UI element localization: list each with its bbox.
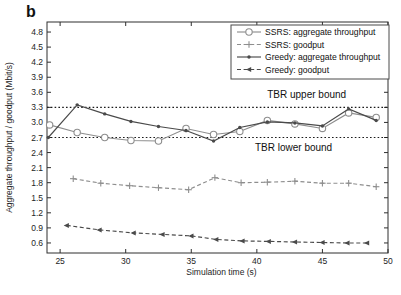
- svg-text:0.6: 0.6: [31, 238, 43, 248]
- throughput-goodput-chart: 2530354045500.60.91.21.51.82.12.42.73.03…: [0, 0, 401, 295]
- tbr-upper-bound-label: TBR upper bound: [267, 89, 346, 100]
- svg-text:2.1: 2.1: [31, 163, 43, 173]
- svg-text:4.8: 4.8: [31, 27, 43, 37]
- svg-text:50: 50: [383, 256, 393, 266]
- series-ssrs-aggregate-throughput: [46, 110, 379, 145]
- svg-text:3.0: 3.0: [31, 117, 43, 127]
- figure-panel-b: b 2530354045500.60.91.21.51.82.12.42.73.…: [0, 0, 401, 295]
- svg-text:2.7: 2.7: [31, 133, 43, 143]
- series-ssrs-goodput: [70, 174, 379, 192]
- y-tick-labels: 0.60.91.21.51.82.12.42.73.03.33.63.94.24…: [31, 27, 43, 248]
- svg-text:1.8: 1.8: [31, 178, 43, 188]
- legend-label-ssrs-aggregate-throughput: SSRS: aggregate throughput: [265, 27, 376, 37]
- svg-text:3.6: 3.6: [31, 87, 43, 97]
- legend-label-greedy-aggregate-throughput: Greedy: aggregate throughput: [265, 52, 381, 62]
- legend-label-ssrs-goodput: SSRS: goodput: [265, 40, 325, 50]
- svg-text:30: 30: [121, 256, 131, 266]
- y-axis-label: Aggregate throughput / goodput (Mbit/s): [4, 62, 14, 213]
- legend-label-greedy-goodput: Greedy: goodput: [265, 65, 330, 75]
- x-tick-labels: 253035404550: [55, 256, 393, 266]
- svg-text:45: 45: [318, 256, 328, 266]
- svg-text:4.2: 4.2: [31, 57, 43, 67]
- svg-text:3.9: 3.9: [31, 72, 43, 82]
- svg-text:3.3: 3.3: [31, 102, 43, 112]
- svg-text:2.4: 2.4: [31, 148, 43, 158]
- series-greedy-goodput: [64, 223, 370, 246]
- svg-text:4.5: 4.5: [31, 42, 43, 52]
- panel-label: b: [26, 3, 36, 21]
- svg-text:1.5: 1.5: [31, 193, 43, 203]
- svg-text:40: 40: [252, 256, 262, 266]
- svg-text:1.2: 1.2: [31, 208, 43, 218]
- svg-text:0.9: 0.9: [31, 223, 43, 233]
- svg-text:35: 35: [187, 256, 197, 266]
- tbr-lower-bound-label: TBR lower bound: [255, 142, 332, 153]
- legend: SSRS: aggregate throughputSSRS: goodputG…: [231, 25, 389, 79]
- svg-text:25: 25: [55, 256, 65, 266]
- x-axis-label: Simulation time (s): [186, 267, 257, 277]
